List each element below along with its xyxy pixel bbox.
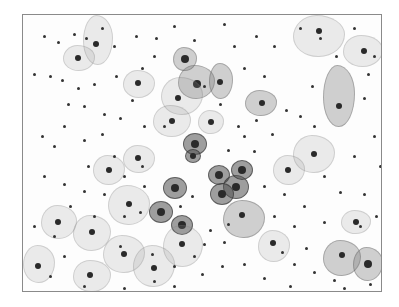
epithelial-cell [149, 201, 173, 223]
cell-nucleus [89, 229, 95, 235]
epithelial-cell [293, 15, 345, 57]
debris-dot [323, 221, 326, 224]
cell-nucleus [285, 167, 291, 173]
epithelial-cell [341, 210, 371, 234]
debris-dot [367, 73, 370, 76]
cell-nucleus [175, 95, 181, 101]
cell-nucleus [179, 241, 185, 247]
debris-dot [281, 251, 284, 254]
debris-dot [263, 75, 266, 78]
debris-dot [173, 285, 176, 288]
debris-dot [101, 133, 104, 136]
epithelial-cell [198, 110, 224, 134]
debris-dot [379, 165, 382, 168]
epithelial-cell [108, 185, 150, 225]
debris-dot [143, 185, 146, 188]
debris-dot [305, 247, 308, 250]
epithelial-cell [273, 155, 305, 185]
cell-nucleus [190, 153, 196, 159]
cell-nucleus [87, 272, 93, 278]
debris-dot [63, 125, 66, 128]
debris-dot [139, 211, 142, 214]
epithelial-cell [73, 260, 111, 292]
debris-dot [237, 125, 240, 128]
cell-nucleus [215, 171, 223, 179]
debris-dot [123, 215, 126, 218]
cell-nucleus [208, 119, 214, 125]
debris-dot [255, 119, 258, 122]
debris-dot [343, 287, 346, 290]
debris-dot [173, 265, 176, 268]
debris-dot [221, 265, 224, 268]
cell-nucleus [171, 184, 179, 192]
debris-dot [67, 103, 70, 106]
debris-dot [83, 105, 86, 108]
debris-dot [201, 273, 204, 276]
cell-nucleus [75, 55, 81, 61]
cell-nucleus [55, 219, 61, 225]
debris-dot [151, 253, 154, 256]
cell-nucleus [316, 28, 322, 34]
debris-dot [155, 37, 158, 40]
cell-nucleus [126, 201, 132, 207]
debris-dot [191, 195, 194, 198]
debris-dot [263, 277, 266, 280]
cell-nucleus [151, 265, 157, 271]
cell-nucleus [353, 219, 359, 225]
cell-nucleus [157, 208, 165, 216]
debris-dot [223, 23, 226, 26]
debris-dot [203, 85, 206, 88]
debris-dot [339, 191, 342, 194]
debris-dot [227, 149, 230, 152]
debris-dot [319, 37, 322, 40]
debris-dot [273, 215, 276, 218]
epithelial-cell [245, 90, 277, 116]
debris-dot [219, 103, 222, 106]
debris-dot [373, 135, 376, 138]
cell-nucleus [135, 80, 141, 86]
cell-nucleus [35, 263, 41, 269]
debris-dot [41, 135, 44, 138]
debris-dot [313, 125, 316, 128]
debris-dot [209, 229, 212, 232]
debris-dot [313, 271, 316, 274]
debris-dot [43, 175, 46, 178]
epithelial-cell [323, 65, 355, 127]
epithelial-cell [353, 247, 382, 281]
debris-dot [271, 133, 274, 136]
cell-nucleus [135, 155, 141, 161]
debris-dot [49, 275, 52, 278]
debris-dot [173, 25, 176, 28]
debris-dot [153, 280, 156, 283]
debris-dot [283, 193, 286, 196]
debris-dot [135, 35, 138, 38]
debris-dot [179, 205, 182, 208]
debris-dot [103, 113, 106, 116]
epithelial-cell [93, 155, 125, 185]
debris-dot [193, 39, 196, 42]
debris-dot [353, 155, 356, 158]
debris-dot [93, 83, 96, 86]
cell-nucleus [361, 48, 367, 54]
cell-nucleus [106, 167, 112, 173]
debris-dot [227, 223, 230, 226]
debris-dot [101, 27, 104, 30]
debris-dot [323, 175, 326, 178]
cell-nucleus [239, 212, 245, 218]
debris-dot [369, 283, 372, 286]
debris-dot [375, 215, 378, 218]
debris-dot [333, 279, 336, 282]
debris-dot [33, 73, 36, 76]
debris-dot [289, 285, 292, 288]
debris-dot [243, 67, 246, 70]
epithelial-cell [123, 145, 155, 173]
epithelial-cell [343, 35, 382, 67]
epithelial-cell [209, 63, 233, 99]
debris-dot [141, 67, 144, 70]
debris-dot [143, 125, 146, 128]
debris-dot [153, 55, 156, 58]
debris-dot [273, 45, 276, 48]
debris-dot [53, 235, 56, 238]
debris-dot [163, 125, 166, 128]
cell-nucleus [339, 252, 345, 258]
